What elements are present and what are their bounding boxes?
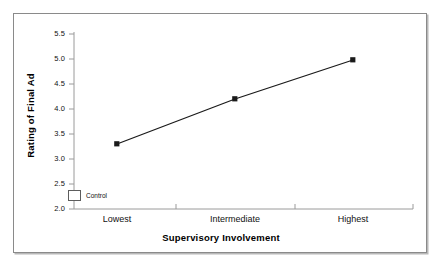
ytick-label-5-0: 5.0 [39,55,65,63]
data-series-line [117,60,353,144]
chart-plot-area: 5.5 5.0 4.5 4.0 3.5 3.0 2.5 2.0 Control … [14,14,428,254]
ytick-label-3-5: 3.5 [39,130,65,138]
y-axis-ticks [69,34,74,209]
data-point-lowest [114,141,119,146]
figure-frame: 5.5 5.0 4.5 4.0 3.5 3.0 2.5 2.0 Control … [13,13,427,253]
y-axis-title: Rating of Final Ad [25,56,36,176]
xtick-label-highest: Highest [313,215,393,224]
xtick-label-lowest: Lowest [77,215,157,224]
control-marker-box [68,190,81,201]
ytick-label-2-5: 2.5 [39,180,65,188]
ytick-label-4-5: 4.5 [39,80,65,88]
data-point-intermediate [232,96,237,101]
x-axis-title: Supervisory Involvement [14,232,428,243]
ytick-label-3-0: 3.0 [39,155,65,163]
xtick-label-intermediate: Intermediate [195,215,275,224]
ytick-label-4-0: 4.0 [39,105,65,113]
ytick-label-2-0: 2.0 [39,205,65,213]
ytick-label-5-5: 5.5 [39,30,65,38]
control-marker-label: Control [86,193,107,200]
data-point-highest [350,57,355,62]
x-axis-ticks [176,204,413,209]
